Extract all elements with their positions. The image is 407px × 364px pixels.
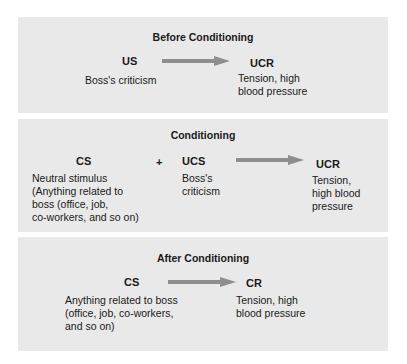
panel-title: Before Conditioning: [18, 31, 388, 43]
cs-label: CS: [76, 155, 91, 167]
ucr-label: UCR: [316, 158, 340, 170]
us-description: Boss's criticism: [85, 74, 156, 87]
text-line: Tension,: [312, 174, 360, 187]
arrow-icon: [162, 56, 230, 66]
text-line: boss (office, job,: [32, 198, 139, 211]
text-line: (office, job, co-workers,: [65, 307, 178, 320]
text-line: Boss's: [182, 172, 220, 185]
before-conditioning-panel: Before Conditioning US UCR Boss's critic…: [18, 17, 388, 113]
conditioning-panel: Conditioning CS + UCS UCR Neutral stimul…: [18, 119, 388, 232]
text-line: blood pressure: [236, 307, 305, 320]
text-line: criticism: [182, 185, 220, 198]
text-line: (Anything related to: [32, 185, 139, 198]
ucr-description: Tension, high blood pressure: [238, 72, 307, 98]
cr-label: CR: [246, 277, 262, 289]
panel-title: After Conditioning: [18, 252, 388, 264]
cr-description: Tension, high blood pressure: [236, 294, 305, 320]
us-label: US: [122, 55, 137, 67]
panel-title: Conditioning: [18, 129, 388, 141]
text-line: co-workers, and so on): [32, 211, 139, 224]
text-line: Neutral stimulus: [32, 172, 139, 185]
cs-description: Neutral stimulus (Anything related to bo…: [32, 172, 139, 224]
arrow-icon: [168, 277, 236, 287]
arrow-icon: [236, 155, 304, 165]
text-line: blood pressure: [238, 85, 307, 98]
cs-description: Anything related to boss (office, job, c…: [65, 294, 178, 333]
ucs-description: Boss's criticism: [182, 172, 220, 198]
text-line: high blood: [312, 187, 360, 200]
text-line: Tension, high: [238, 72, 307, 85]
text-line: and so on): [65, 320, 178, 333]
after-conditioning-panel: After Conditioning CS CR Anything relate…: [18, 237, 388, 351]
text-line: Tension, high: [236, 294, 305, 307]
ucr-description: Tension, high blood pressure: [312, 174, 360, 213]
ucr-label: UCR: [250, 57, 274, 69]
plus-sign: +: [156, 156, 162, 168]
text-line: Anything related to boss: [65, 294, 178, 307]
text-line: pressure: [312, 200, 360, 213]
ucs-label: UCS: [182, 155, 205, 167]
cs-label: CS: [124, 276, 139, 288]
